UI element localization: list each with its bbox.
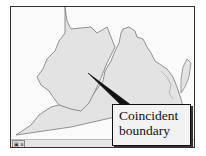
delmarva-peninsula [181, 59, 191, 93]
status-tag: ▣ a [12, 140, 25, 148]
callout-line1: Coincident [119, 108, 190, 123]
coincident-boundary-callout: Coincident boundary [112, 104, 191, 146]
callout-line2: boundary [119, 123, 190, 138]
